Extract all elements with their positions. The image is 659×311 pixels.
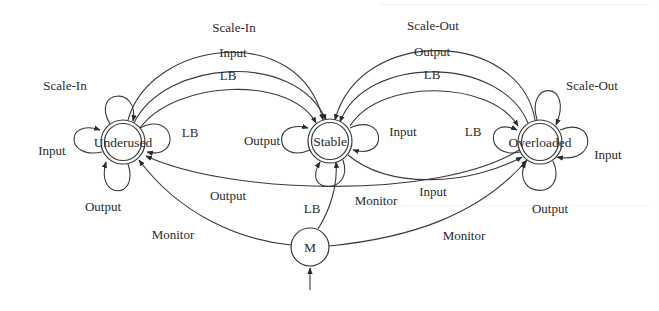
loop-stable-output — [282, 127, 310, 153]
label-monitor-left: Monitor — [152, 227, 195, 242]
label-top-input: Input — [219, 45, 247, 60]
state-diagram: Underused Stable Overloaded M Scale-In I… — [0, 0, 659, 311]
label-monitor-mid: Monitor — [355, 193, 398, 208]
label-overloaded-loop-lb: LB — [465, 124, 482, 139]
label-stable-loop-output: Output — [244, 133, 281, 148]
label-overloaded-loop-input: Input — [594, 147, 622, 162]
label-stable-loop-lb: LB — [304, 201, 321, 216]
node-stable-label: Stable — [313, 134, 347, 149]
label-underused-loop-input: Input — [38, 143, 66, 158]
label-underused-loop-scale-in: Scale-In — [43, 78, 87, 93]
label-top-lb-left: LB — [220, 68, 237, 83]
label-underused-loop-lb: LB — [182, 125, 199, 140]
label-top-scale-out: Scale-Out — [407, 18, 459, 33]
label-top-output: Output — [414, 44, 451, 59]
loop-stable-lb — [316, 160, 345, 187]
label-stable-loop-input: Input — [389, 124, 417, 139]
background-bleed-text — [380, 4, 650, 206]
label-underused-loop-output: Output — [85, 199, 122, 214]
node-monitor-label: M — [304, 240, 316, 255]
label-overloaded-loop-output: Output — [532, 201, 569, 216]
loop-overloaded-output — [523, 161, 556, 190]
edge-monitor-stable — [318, 162, 336, 229]
loop-underused-output — [104, 162, 130, 191]
label-monitor-right: Monitor — [443, 228, 486, 243]
loop-stable-input — [350, 125, 379, 152]
node-stable: Stable — [308, 119, 352, 163]
node-underused-label: Underused — [94, 135, 153, 150]
label-mid-output: Output — [210, 188, 247, 203]
edge-underused-stable-lb — [140, 89, 316, 128]
label-overloaded-loop-scale-out: Scale-Out — [566, 78, 618, 93]
node-monitor: M — [291, 228, 329, 266]
edge-stable-overloaded-lb — [350, 91, 518, 126]
edge-underused-stable-scale-in — [128, 52, 323, 120]
label-top-scale-in: Scale-In — [212, 20, 256, 35]
label-mid-input: Input — [419, 184, 447, 199]
label-top-lb-right: LB — [424, 67, 441, 82]
edge-stable-overloaded-input — [348, 155, 522, 180]
node-overloaded-label: Overloaded — [509, 135, 572, 150]
